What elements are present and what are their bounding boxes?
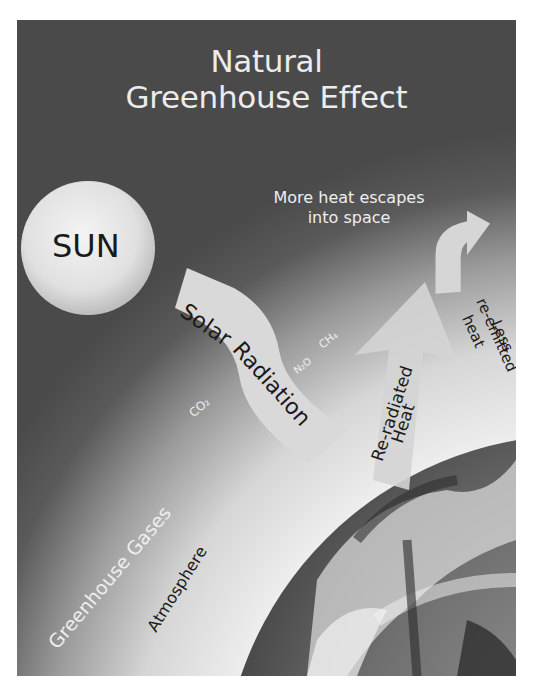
escape-label-1: More heat escapes xyxy=(249,190,449,206)
sun-label: SUN xyxy=(52,230,120,262)
title-line-1: Natural xyxy=(17,46,516,77)
diagram-graphics xyxy=(17,20,516,676)
escape-label-2: into space xyxy=(249,210,449,226)
title-line-2: Greenhouse Effect xyxy=(17,82,516,113)
greenhouse-diagram: Natural Greenhouse Effect SUN More heat … xyxy=(17,20,516,676)
